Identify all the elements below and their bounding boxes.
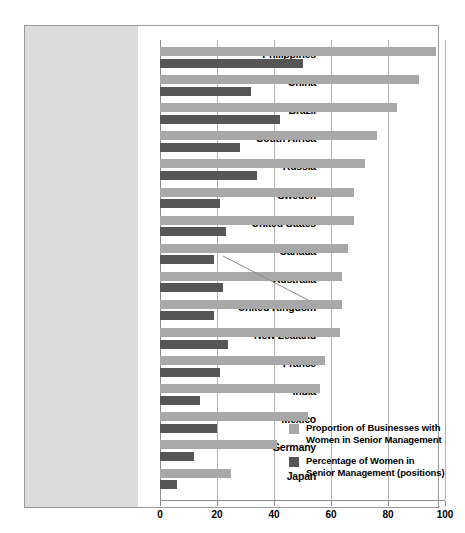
bar-percentage bbox=[160, 143, 240, 152]
bar-proportion bbox=[160, 103, 397, 112]
plot-area: PhilippinesChinaBrazilSouth AfricaRussia… bbox=[138, 26, 438, 507]
bar-percentage bbox=[160, 368, 220, 377]
bar-row: United Kingdom bbox=[138, 297, 438, 325]
bar-percentage bbox=[160, 340, 228, 349]
legend-label-line2: Senior Management (positions) bbox=[306, 467, 461, 479]
bar-percentage bbox=[160, 396, 200, 405]
bar-proportion bbox=[160, 216, 354, 225]
x-tick-label-100: 100 bbox=[437, 509, 454, 520]
legend-item-proportion: Proportion of Businesses with Women in S… bbox=[289, 422, 461, 446]
category-label-panel bbox=[25, 26, 138, 507]
bar-percentage bbox=[160, 311, 214, 320]
bar-percentage bbox=[160, 283, 223, 292]
bar-row: South Africa bbox=[138, 128, 438, 156]
bar-proportion bbox=[160, 75, 419, 84]
x-tick-100 bbox=[445, 501, 446, 506]
x-tick-80 bbox=[388, 501, 389, 506]
bar-proportion bbox=[160, 47, 436, 56]
legend-label-line1: Proportion of Businesses with bbox=[306, 422, 461, 434]
bar-percentage bbox=[160, 424, 217, 433]
bar-proportion bbox=[160, 440, 277, 449]
bar-proportion bbox=[160, 131, 377, 140]
bar-row: Brazil bbox=[138, 100, 438, 128]
bar-row: Australia bbox=[138, 269, 438, 297]
x-tick-label-40: 40 bbox=[268, 509, 279, 520]
bar-row: France bbox=[138, 353, 438, 381]
legend-label-line2: Women in Senior Management bbox=[306, 434, 461, 446]
bar-row: Sweden bbox=[138, 185, 438, 213]
x-axis-line bbox=[160, 500, 445, 501]
bar-proportion bbox=[160, 384, 320, 393]
x-tick-label-80: 80 bbox=[382, 509, 393, 520]
bar-proportion bbox=[160, 244, 348, 253]
bar-percentage bbox=[160, 115, 280, 124]
x-tick-0 bbox=[160, 501, 161, 506]
bar-percentage bbox=[160, 255, 214, 264]
bar-row: Russia bbox=[138, 156, 438, 184]
legend-swatch-dark bbox=[289, 457, 299, 467]
bar-percentage bbox=[160, 59, 303, 68]
legend-label-line1: Percentage of Women in bbox=[306, 455, 461, 467]
bar-percentage bbox=[160, 480, 177, 489]
bar-percentage bbox=[160, 199, 220, 208]
chart-legend: Proportion of Businesses with Women in S… bbox=[289, 422, 461, 488]
x-tick-label-20: 20 bbox=[211, 509, 222, 520]
x-tick-label-60: 60 bbox=[325, 509, 336, 520]
bar-row: New Zealand bbox=[138, 325, 438, 353]
x-tick-label-0: 0 bbox=[157, 509, 163, 520]
bar-row: Philippines bbox=[138, 44, 438, 72]
chart-figure: PhilippinesChinaBrazilSouth AfricaRussia… bbox=[24, 25, 439, 508]
bar-percentage bbox=[160, 227, 226, 236]
legend-item-percentage: Percentage of Women in Senior Management… bbox=[289, 455, 461, 479]
legend-swatch-light bbox=[289, 424, 299, 434]
bar-proportion bbox=[160, 159, 365, 168]
x-tick-20 bbox=[217, 501, 218, 506]
x-tick-40 bbox=[274, 501, 275, 506]
bar-proportion bbox=[160, 300, 342, 309]
bar-row: India bbox=[138, 381, 438, 409]
bar-proportion bbox=[160, 356, 325, 365]
bar-row: Canada bbox=[138, 241, 438, 269]
bar-proportion bbox=[160, 188, 354, 197]
bar-proportion bbox=[160, 328, 340, 337]
bar-percentage bbox=[160, 452, 194, 461]
bar-percentage bbox=[160, 171, 257, 180]
x-tick-60 bbox=[331, 501, 332, 506]
bar-row: United States bbox=[138, 213, 438, 241]
bar-row: China bbox=[138, 72, 438, 100]
bar-proportion bbox=[160, 412, 308, 421]
bar-percentage bbox=[160, 87, 251, 96]
bar-proportion bbox=[160, 469, 231, 478]
bar-proportion bbox=[160, 272, 342, 281]
